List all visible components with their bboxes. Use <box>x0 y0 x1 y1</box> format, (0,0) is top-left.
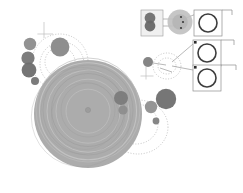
zoom-inset-disk-closeup-point-1 <box>182 21 184 23</box>
zoom-inset-binary-pair-body-1 <box>145 21 156 32</box>
clump-upper-left-clump-b <box>21 51 34 64</box>
figure-canvas <box>0 0 243 193</box>
detail-box-middle <box>193 40 221 66</box>
zoom-inset-disk-closeup-point-2 <box>180 27 182 29</box>
clump-upper-left-clump-a <box>24 38 36 50</box>
clump-inner-right-clump-small <box>118 105 127 114</box>
zoom-inset-binary-pair <box>141 10 163 36</box>
detail-box-bottom <box>193 65 221 91</box>
clump-inset-source-clump <box>143 57 153 67</box>
clump-lower-right-clump-small <box>153 118 160 125</box>
clump-outer-right-clump-large <box>156 89 176 109</box>
detail-box-bottom-corner-marker <box>194 66 197 69</box>
detail-box-top <box>194 10 222 36</box>
detail-box-middle-corner-marker <box>194 41 197 44</box>
clump-upper-left-clump-c <box>22 63 37 78</box>
disk-core <box>85 107 90 112</box>
clump-upper-clump-large <box>51 38 70 57</box>
astrophysical-disk-figure <box>0 0 243 193</box>
clump-mid-right-clump <box>145 101 157 113</box>
clump-upper-left-clump-d <box>31 77 39 85</box>
clump-inner-right-clump <box>114 91 128 105</box>
zoom-inset-disk-closeup-point-0 <box>180 16 182 18</box>
zoom-inset-disk-closeup <box>168 10 193 35</box>
